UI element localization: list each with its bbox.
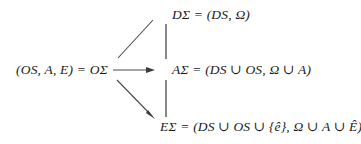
E-sigma-node: EΣ = (DS ∪ OS ∪ {ê}, Ω ∪ A ∪ Ê) [160,120,361,134]
edge-o-to-e [117,80,150,114]
commutative-diagram: DΣ = (DS, Ω) (OS, A, E) = OΣ AΣ = (DS ∪ … [0,0,361,144]
D-sigma-node: DΣ = (DS, Ω) [172,8,250,22]
edge-o-to-e-arrowhead [146,110,155,119]
edge-o-to-d [118,20,153,58]
edge-o-to-a-arrowhead [146,67,155,73]
O-sigma-node: (OS, A, E) = OΣ [16,63,108,77]
A-sigma-node: AΣ = (DS ∪ OS, Ω ∪ A) [172,63,311,77]
